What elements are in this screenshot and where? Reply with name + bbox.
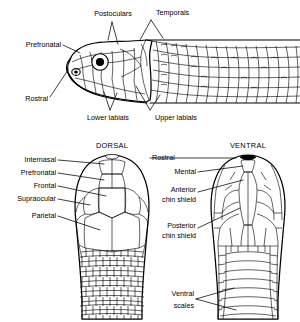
label-upper-labials: Upper labials: [155, 113, 197, 122]
label-frontal: Frontal: [34, 181, 57, 190]
label-postoculars: Postoculars: [94, 9, 132, 18]
leader-rostral: [50, 70, 68, 97]
label-lower-labials: Lower labials: [87, 113, 129, 122]
leader-temporals: [140, 20, 163, 40]
label-internasal: Internasal: [24, 155, 56, 164]
label-ventral-scales-line1: Ventral: [172, 289, 195, 298]
label-rostral-ventral: Rostral: [152, 153, 175, 162]
label-temporals: Temporals: [156, 8, 190, 17]
label-anterior-chin-shield-line2: chin shield: [162, 195, 196, 204]
label-ventral-scales-line2: scales: [174, 301, 195, 310]
label-rostral: Rostral: [25, 94, 48, 103]
leader-prefronatal: [63, 45, 80, 53]
dorsal-heading: DORSAL: [96, 141, 128, 150]
lateral-nostril: [72, 69, 80, 76]
lateral-body-scales: [151, 41, 300, 103]
leader-postoculars: [108, 22, 118, 44]
label-parietal: Parietal: [32, 211, 57, 220]
label-prefronatal-dorsal: Prefronatal: [21, 168, 57, 177]
snake-scalation-figure: Postoculars Temporals Prefronatal Rostra…: [0, 0, 300, 322]
label-mental: Mental: [174, 167, 196, 176]
dorsal-rostral-scale: [105, 155, 119, 160]
label-prefronatal: Prefronatal: [26, 40, 62, 49]
ventral-heading: VENTRAL: [230, 141, 266, 150]
lateral-head-view: Postoculars Temporals Prefronatal Rostra…: [25, 8, 300, 122]
ventral-head-view: VENTRAL: [150, 141, 285, 319]
lateral-eye: [92, 54, 108, 70]
label-posterior-chin-shield-line2: chin shield: [162, 231, 196, 240]
label-anterior-chin-shield-line1: Anterior: [171, 185, 197, 194]
label-posterior-chin-shield-line1: Posterior: [167, 221, 196, 230]
dorsal-head-view: DORSAL: [17, 141, 149, 319]
label-supraocular: Supraocular: [17, 194, 56, 203]
